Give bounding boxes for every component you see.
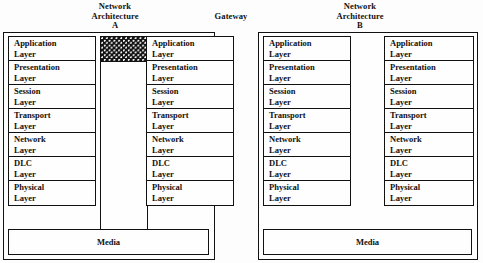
layer-box-physical[interactable]: Physical Layer bbox=[264, 181, 350, 205]
layer-label-line-2: Layer bbox=[269, 169, 350, 180]
layer-label-line-1: Physical bbox=[390, 182, 473, 193]
layer-label-line-2: Layer bbox=[14, 49, 95, 60]
media-bar-right: Media bbox=[263, 229, 472, 255]
layer-label-line-1: Session bbox=[269, 86, 350, 97]
layer-label-line-2: Layer bbox=[269, 49, 350, 60]
layer-label-line-2: Layer bbox=[14, 193, 95, 204]
layer-box-session[interactable]: Session Layer bbox=[9, 85, 95, 109]
layer-label-line-1: Presentation bbox=[14, 62, 95, 73]
layer-box-dlc[interactable]: DLC Layer bbox=[385, 157, 473, 181]
layer-label-line-1: DLC bbox=[152, 158, 233, 169]
caption-network-architecture-b: Network Architecture B bbox=[315, 2, 405, 31]
layer-box-network[interactable]: Network Layer bbox=[147, 133, 233, 157]
layer-box-transport[interactable]: Transport Layer bbox=[147, 109, 233, 133]
layer-box-transport[interactable]: Transport Layer bbox=[385, 109, 473, 133]
protocol-stack-gateway-right: Application Layer Presentation Layer Ses… bbox=[263, 36, 351, 206]
protocol-stack-architecture-b: Application Layer Presentation Layer Ses… bbox=[384, 36, 474, 206]
layer-box-dlc[interactable]: DLC Layer bbox=[264, 157, 350, 181]
panel-network-architecture-b: Application Layer Presentation Layer Ses… bbox=[258, 32, 478, 260]
protocol-stack-gateway-left: Application Layer Presentation Layer Ses… bbox=[146, 36, 234, 206]
layer-label-line-1: Application bbox=[390, 38, 473, 49]
layer-box-physical[interactable]: Physical Layer bbox=[385, 181, 473, 205]
layer-label-line-1: Application bbox=[14, 38, 95, 49]
layer-label-line-2: Layer bbox=[390, 169, 473, 180]
layer-box-session[interactable]: Session Layer bbox=[147, 85, 233, 109]
layer-box-dlc[interactable]: DLC Layer bbox=[147, 157, 233, 181]
layer-label-line-1: Transport bbox=[269, 110, 350, 121]
layer-box-session[interactable]: Session Layer bbox=[385, 85, 473, 109]
layer-label-line-2: Layer bbox=[390, 145, 473, 156]
layer-label-line-1: Physical bbox=[269, 182, 350, 193]
layer-label-line-1: DLC bbox=[14, 158, 95, 169]
layer-box-physical[interactable]: Physical Layer bbox=[9, 181, 95, 205]
layer-box-presentation[interactable]: Presentation Layer bbox=[385, 61, 473, 85]
layer-label-line-2: Layer bbox=[14, 169, 95, 180]
layer-box-physical[interactable]: Physical Layer bbox=[147, 181, 233, 205]
media-bar-left: Media bbox=[8, 229, 209, 255]
layer-label-line-1: Application bbox=[152, 38, 233, 49]
layer-label-line-2: Layer bbox=[269, 97, 350, 108]
layer-label-line-2: Layer bbox=[152, 193, 233, 204]
layer-label-line-1: DLC bbox=[269, 158, 350, 169]
layer-label-line-1: Presentation bbox=[390, 62, 473, 73]
layer-label-line-2: Layer bbox=[14, 97, 95, 108]
layer-label-line-1: Network bbox=[152, 134, 233, 145]
layer-box-presentation[interactable]: Presentation Layer bbox=[147, 61, 233, 85]
layer-label-line-2: Layer bbox=[390, 193, 473, 204]
layer-label-line-2: Layer bbox=[390, 73, 473, 84]
layer-label-line-2: Layer bbox=[152, 121, 233, 132]
layer-label-line-2: Layer bbox=[269, 145, 350, 156]
layer-label-line-2: Layer bbox=[390, 97, 473, 108]
layer-label-line-2: Layer bbox=[14, 145, 95, 156]
layer-box-session[interactable]: Session Layer bbox=[264, 85, 350, 109]
layer-box-network[interactable]: Network Layer bbox=[385, 133, 473, 157]
layer-label-line-2: Layer bbox=[269, 193, 350, 204]
media-label: Media bbox=[97, 237, 120, 247]
layer-box-presentation[interactable]: Presentation Layer bbox=[9, 61, 95, 85]
layer-box-application[interactable]: Application Layer bbox=[385, 37, 473, 61]
layer-label-line-1: Session bbox=[390, 86, 473, 97]
layer-label-line-2: Layer bbox=[390, 49, 473, 60]
caption-line-3: B bbox=[315, 21, 405, 31]
layer-label-line-2: Layer bbox=[269, 73, 350, 84]
layer-box-network[interactable]: Network Layer bbox=[264, 133, 350, 157]
layer-label-line-1: Network bbox=[269, 134, 350, 145]
layer-label-line-1: Transport bbox=[152, 110, 233, 121]
layer-box-application[interactable]: Application Layer bbox=[9, 37, 95, 61]
layer-label-line-1: Network bbox=[390, 134, 473, 145]
caption-network-architecture-a: Network Architecture A bbox=[70, 2, 160, 31]
layer-label-line-2: Layer bbox=[14, 121, 95, 132]
caption-line-3: A bbox=[70, 21, 160, 31]
layer-label-line-1: Transport bbox=[14, 110, 95, 121]
layer-label-line-1: Session bbox=[152, 86, 233, 97]
layer-box-transport[interactable]: Transport Layer bbox=[9, 109, 95, 133]
layer-label-line-1: Network bbox=[14, 134, 95, 145]
panel-network-architecture-a: Application Layer Presentation Layer Ses… bbox=[3, 32, 215, 260]
layer-label-line-1: Presentation bbox=[269, 62, 350, 73]
media-label: Media bbox=[356, 237, 379, 247]
caption-gateway: Gateway bbox=[196, 12, 266, 22]
protocol-stack-architecture-a: Application Layer Presentation Layer Ses… bbox=[8, 36, 96, 206]
layer-label-line-2: Layer bbox=[14, 73, 95, 84]
layer-label-line-1: Presentation bbox=[152, 62, 233, 73]
layer-box-presentation[interactable]: Presentation Layer bbox=[264, 61, 350, 85]
layer-box-application[interactable]: Application Layer bbox=[264, 37, 350, 61]
layer-box-dlc[interactable]: DLC Layer bbox=[9, 157, 95, 181]
layer-label-line-2: Layer bbox=[152, 49, 233, 60]
caption-line-1: Gateway bbox=[196, 12, 266, 22]
layer-label-line-1: Session bbox=[14, 86, 95, 97]
layer-label-line-1: Transport bbox=[390, 110, 473, 121]
layer-label-line-2: Layer bbox=[269, 121, 350, 132]
layer-label-line-2: Layer bbox=[152, 145, 233, 156]
layer-box-transport[interactable]: Transport Layer bbox=[264, 109, 350, 133]
layer-label-line-2: Layer bbox=[152, 73, 233, 84]
gateway-column-left bbox=[100, 36, 148, 231]
layer-label-line-2: Layer bbox=[152, 169, 233, 180]
layer-label-line-2: Layer bbox=[390, 121, 473, 132]
diagram-canvas: Network Architecture A Gateway Network A… bbox=[0, 0, 483, 263]
layer-box-application[interactable]: Application Layer bbox=[147, 37, 233, 61]
layer-label-line-1: Physical bbox=[14, 182, 95, 193]
layer-label-line-1: DLC bbox=[390, 158, 473, 169]
layer-label-line-1: Application bbox=[269, 38, 350, 49]
layer-box-network[interactable]: Network Layer bbox=[9, 133, 95, 157]
